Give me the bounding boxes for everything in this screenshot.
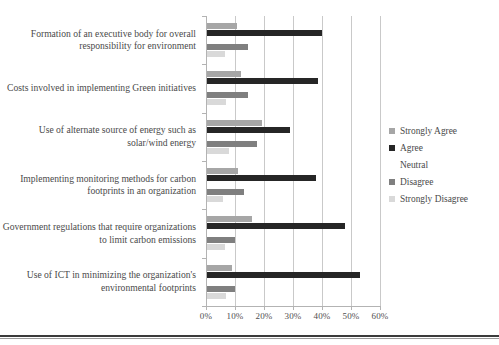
y-axis-line — [206, 16, 207, 306]
y-tickmark — [202, 113, 206, 114]
chart-legend: Strongly AgreeAgreeNeutralDisagreeStrong… — [389, 122, 495, 207]
bar-agree — [206, 127, 290, 133]
bar-disagree — [206, 237, 235, 243]
legend-label: Disagree — [400, 177, 433, 187]
bar-strongly-agree — [206, 216, 252, 222]
y-tickmark — [202, 64, 206, 65]
x-tickmark — [351, 306, 352, 310]
category-label: Government regulations that require orga… — [0, 221, 196, 246]
bar-disagree — [206, 141, 257, 147]
bar-strongly-disagree — [206, 99, 226, 105]
bar-agree — [206, 30, 322, 36]
bar-group — [206, 258, 380, 306]
category-label: Formation of an executive body for overa… — [0, 28, 196, 53]
legend-swatch-icon — [389, 179, 395, 185]
legend-item[interactable]: Neutral — [389, 156, 495, 173]
x-tickmark — [380, 306, 381, 310]
bar-disagree — [206, 286, 235, 292]
y-tickmark — [202, 306, 206, 307]
gridline-60% — [380, 16, 381, 306]
bar-agree — [206, 175, 316, 181]
category-label: Implementing monitoring methods for carb… — [0, 173, 196, 198]
bar-disagree — [206, 44, 248, 50]
legend-label: Agree — [400, 143, 423, 153]
legend-label: Neutral — [400, 160, 428, 170]
bar-group — [206, 16, 380, 64]
y-tickmark — [202, 16, 206, 17]
legend-label: Strongly Agree — [400, 126, 457, 136]
bar-strongly-disagree — [206, 293, 226, 299]
legend-item[interactable]: Strongly Agree — [389, 122, 495, 139]
bar-strongly-agree — [206, 23, 237, 29]
x-tickmark — [293, 306, 294, 310]
bar-strongly-agree — [206, 71, 241, 77]
legend-item[interactable]: Agree — [389, 139, 495, 156]
bar-strongly-agree — [206, 168, 238, 174]
bar-strongly-agree — [206, 265, 232, 271]
plot-area — [206, 16, 380, 306]
legend-swatch-icon — [389, 128, 395, 134]
footer-rule-light — [0, 338, 499, 339]
y-tickmark — [202, 209, 206, 210]
bar-disagree — [206, 92, 248, 98]
legend-swatch-icon — [389, 145, 395, 151]
x-tickmark — [322, 306, 323, 310]
y-tickmark — [202, 258, 206, 259]
legend-swatch-icon — [389, 162, 395, 168]
chart-figure: Strongly AgreeAgreeNeutralDisagreeStrong… — [0, 0, 499, 345]
footer-rule — [0, 335, 499, 337]
legend-item[interactable]: Strongly Disagree — [389, 190, 495, 207]
bar-strongly-disagree — [206, 196, 223, 202]
x-tickmark — [235, 306, 236, 310]
bar-agree — [206, 78, 318, 84]
category-label: Use of alternate source of energy such a… — [0, 124, 196, 149]
category-label: Use of ICT in minimizing the organizatio… — [0, 269, 196, 294]
bar-agree — [206, 272, 360, 278]
bar-strongly-disagree — [206, 244, 225, 250]
bar-strongly-agree — [206, 120, 262, 126]
bar-strongly-disagree — [206, 148, 229, 154]
bar-group — [206, 161, 380, 209]
y-tickmark — [202, 161, 206, 162]
legend-item[interactable]: Disagree — [389, 173, 495, 190]
bar-disagree — [206, 189, 244, 195]
bar-group — [206, 113, 380, 161]
category-label: Costs involved in implementing Green ini… — [0, 82, 196, 95]
bar-agree — [206, 223, 345, 229]
bar-strongly-disagree — [206, 51, 225, 57]
x-tickmark — [264, 306, 265, 310]
legend-label: Strongly Disagree — [400, 194, 468, 204]
x-tick-label: 60% — [360, 311, 400, 321]
legend-swatch-icon — [389, 196, 395, 202]
bar-group — [206, 209, 380, 257]
bar-group — [206, 64, 380, 112]
x-tickmark — [206, 306, 207, 310]
